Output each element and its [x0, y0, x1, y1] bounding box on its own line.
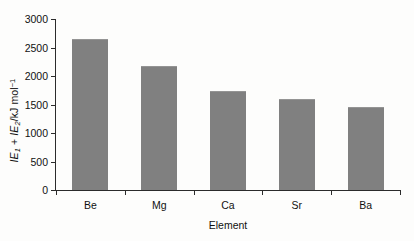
- y-axis-title: IE1 + IE2/kJ mol−1: [0, 0, 30, 241]
- y-axis-tick-mark: [51, 76, 56, 77]
- x-axis-tick-mark: [56, 190, 57, 195]
- x-axis-category-label: Mg: [152, 199, 167, 211]
- y-axis-tick-label: 3000: [25, 13, 48, 25]
- x-axis-tick-mark: [194, 190, 195, 195]
- x-axis-tick-mark: [125, 190, 126, 195]
- y-axis-tick-mark: [51, 162, 56, 163]
- bar: [72, 39, 108, 190]
- x-axis-title: Element: [56, 219, 400, 231]
- y-axis-tick-label: 1000: [25, 127, 48, 139]
- x-axis-tick-mark: [331, 190, 332, 195]
- bar: [141, 66, 177, 190]
- x-axis-line: [55, 190, 401, 191]
- plot-area: 050010001500200025003000 BeMgCaSrBa: [56, 19, 400, 190]
- y-axis-tick-mark: [51, 48, 56, 49]
- y-axis-tick-label: 500: [30, 156, 48, 168]
- y-axis-tick-mark: [51, 105, 56, 106]
- y-axis-tick-label: 0: [42, 184, 48, 196]
- y-axis-title-text: IE1 + IE2/kJ mol−1: [8, 79, 22, 163]
- y-axis-tick-mark: [51, 19, 56, 20]
- x-axis-category-label: Ba: [359, 199, 372, 211]
- x-axis-category-label: Ca: [221, 199, 234, 211]
- bar: [279, 99, 315, 190]
- x-axis-category-label: Sr: [292, 199, 303, 211]
- x-axis-tick-mark: [400, 190, 401, 195]
- bar: [210, 91, 246, 190]
- x-axis-tick-mark: [262, 190, 263, 195]
- y-axis-tick-label: 1500: [25, 99, 48, 111]
- bar: [348, 107, 384, 190]
- x-axis-category-label: Be: [84, 199, 97, 211]
- bar-chart-figure: IE1 + IE2/kJ mol−1 050010001500200025003…: [0, 0, 414, 241]
- y-axis-tick-label: 2000: [25, 70, 48, 82]
- y-axis-tick-label: 2500: [25, 42, 48, 54]
- y-axis-tick-mark: [51, 133, 56, 134]
